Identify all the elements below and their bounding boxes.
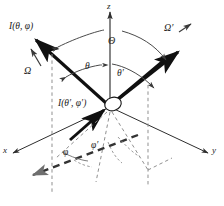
ray-label-scattered-radiance: I(θ, φ)	[9, 22, 33, 32]
ray-scattered-radiance	[36, 40, 106, 103]
vector-omega	[31, 49, 41, 66]
vector-label-omega: Ω	[24, 66, 31, 76]
angle-label-polar-angle: θ	[85, 62, 90, 72]
ray-incoming-beam	[70, 110, 104, 140]
axis-label-z: z	[107, 2, 111, 11]
vector-label-omega-prime: Ω′	[164, 23, 173, 33]
axis-label-x: x	[3, 146, 7, 155]
scattering-geometry-figure: z x y I(θ, φ) I(θ′, φ′) Ω Ω′ Θ θ θ′ φ φ′	[0, 0, 224, 206]
vector-omega-prime	[179, 24, 191, 32]
angle-label-polar-angle-prime: θ′	[117, 69, 124, 79]
angle-label-scattering-angle: Θ	[108, 36, 115, 46]
angle-label-azimuth-angle-prime: φ′	[91, 141, 98, 151]
angle-label-azimuth-angle: φ	[63, 148, 68, 158]
diagram-canvas	[0, 0, 224, 206]
axis-label-y: y	[212, 146, 216, 155]
ray-label-incident-radiance: I(θ′, φ′)	[58, 99, 86, 109]
axis-y	[112, 108, 208, 153]
azimuth-projection-incident	[33, 135, 138, 175]
